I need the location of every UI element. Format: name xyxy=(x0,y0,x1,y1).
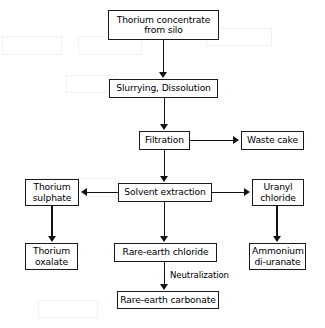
arrowhead-down xyxy=(160,284,168,290)
edge-slurrying-to-filtration xyxy=(164,98,166,124)
node-label: Waste cake xyxy=(244,135,301,145)
arrowhead-down xyxy=(48,236,56,242)
node-label: Rare-earth carbonate xyxy=(120,295,216,305)
arrowhead-down xyxy=(159,72,167,78)
node-thorium-concentrate[interactable]: Thorium concentrate from silo xyxy=(108,10,219,40)
node-ammonium-di-uranate[interactable]: Ammonium di-uranate xyxy=(249,243,306,270)
node-label: Filtration xyxy=(142,135,187,145)
node-rare-earth-chloride[interactable]: Rare-earth chloride xyxy=(114,243,217,262)
edge-thorium-sulphate-to-oxalate xyxy=(51,206,53,236)
node-thorium-oxalate[interactable]: Thorium oxalate xyxy=(25,243,78,270)
edge-solvent-to-rare-earth-chloride xyxy=(164,202,166,236)
arrowhead-right xyxy=(233,136,239,144)
node-label: Uranyl chloride xyxy=(255,182,301,203)
node-label: Slurrying, Dissolution xyxy=(112,83,215,93)
arrowhead-down xyxy=(160,124,168,130)
node-rare-earth-carbonate[interactable]: Rare-earth carbonate xyxy=(117,291,219,309)
node-label: Thorium sulphate xyxy=(28,182,76,203)
node-label: Thorium oxalate xyxy=(28,246,75,267)
node-filtration[interactable]: Filtration xyxy=(139,131,190,150)
node-slurrying-dissolution[interactable]: Slurrying, Dissolution xyxy=(109,79,218,98)
bleed-artifact xyxy=(2,36,62,55)
arrowhead-down xyxy=(273,236,281,242)
node-thorium-sulphate[interactable]: Thorium sulphate xyxy=(25,179,79,206)
process-flowchart: Neutralization Thorium concentrate from … xyxy=(0,0,325,328)
arrowhead-left xyxy=(81,188,87,196)
bleed-artifact xyxy=(38,300,98,318)
edge-rare-earth-chloride-to-carbonate xyxy=(164,262,166,285)
arrowhead-down xyxy=(160,236,168,242)
node-label: Ammonium di-uranate xyxy=(252,246,303,267)
node-waste-cake[interactable]: Waste cake xyxy=(241,131,304,150)
arrowhead-right xyxy=(244,188,250,196)
edge-filtration-to-waste-cake xyxy=(190,140,234,142)
edge-filtration-to-solvent-extraction xyxy=(164,150,166,176)
arrowhead-down xyxy=(160,176,168,182)
node-label: Thorium concentrate from silo xyxy=(111,15,216,36)
node-uranyl-chloride[interactable]: Uranyl chloride xyxy=(252,179,304,206)
edge-concentrate-to-slurrying xyxy=(163,40,165,73)
node-label: Solvent extraction xyxy=(121,187,209,197)
edge-solvent-to-uranyl-chloride xyxy=(212,192,244,194)
edge-label-neutralization: Neutralization xyxy=(170,270,229,280)
node-solvent-extraction[interactable]: Solvent extraction xyxy=(118,183,212,202)
node-label: Rare-earth chloride xyxy=(117,247,214,257)
edge-solvent-to-thorium-sulphate xyxy=(87,192,118,194)
edge-uranyl-chloride-to-ammonium-di-uranate xyxy=(276,206,278,236)
